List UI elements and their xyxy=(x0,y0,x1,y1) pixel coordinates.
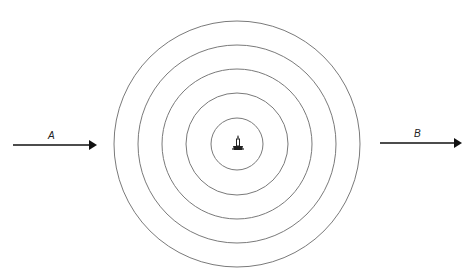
arrow-b: B xyxy=(380,128,462,148)
wavefront-diagram: A B xyxy=(0,0,470,276)
arrow-a: A xyxy=(13,130,97,150)
arrow-b-label: B xyxy=(414,128,421,139)
candle-icon xyxy=(232,135,244,150)
arrow-a-label: A xyxy=(47,130,55,141)
